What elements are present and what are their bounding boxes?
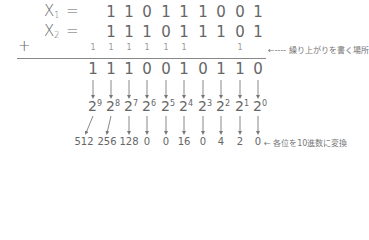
power-of-two: 28 <box>104 98 122 114</box>
down-arrows-row1 <box>93 80 258 97</box>
down-arrows-row2 <box>86 116 258 133</box>
power-of-two: 25 <box>159 98 177 114</box>
decimal-value: 256 <box>96 136 118 147</box>
power-of-two: 26 <box>140 98 158 114</box>
decimal-value: 512 <box>73 136 95 147</box>
power-of-two: 22 <box>214 98 232 114</box>
power-of-two: 29 <box>86 98 104 114</box>
power-of-two: 23 <box>196 98 214 114</box>
power-of-two: 27 <box>122 98 140 114</box>
decimal-note: ← 各位を10進数に変換 <box>264 137 347 148</box>
power-of-two: 20 <box>251 98 269 114</box>
power-of-two: 21 <box>233 98 251 114</box>
power-of-two: 24 <box>177 98 195 114</box>
